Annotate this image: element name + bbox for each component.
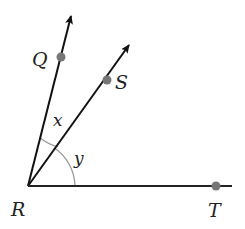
label-q: Q <box>32 48 48 70</box>
point-s <box>103 76 112 85</box>
label-s: S <box>115 71 128 93</box>
label-r: R <box>10 198 25 220</box>
label-angle-y: y <box>73 148 84 168</box>
point-t <box>212 182 221 191</box>
angle-diagram: Q S R T x y <box>0 0 245 229</box>
point-q <box>57 53 66 62</box>
angle-y-arc <box>55 148 75 186</box>
ray-rq <box>28 16 71 186</box>
angle-x-arc <box>40 137 58 146</box>
label-t: T <box>208 199 222 221</box>
label-angle-x: x <box>53 110 63 130</box>
